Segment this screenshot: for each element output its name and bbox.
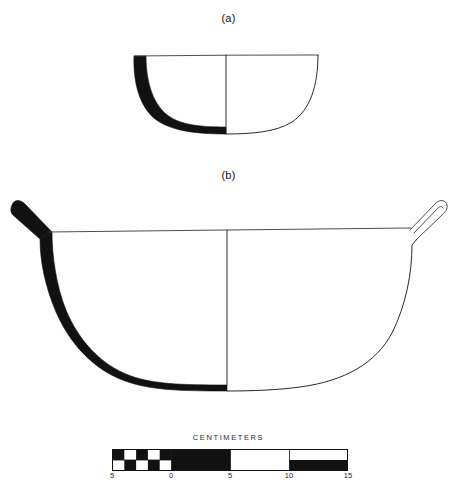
vessel-b-drawing (0, 195, 457, 405)
vessel-b-rim-left (48, 230, 227, 232)
scale-tick-0: 0 (159, 471, 183, 480)
figure-label-a: (a) (0, 12, 457, 24)
figure-label-b: (b) (0, 169, 457, 181)
scale-tick-15: 15 (336, 471, 360, 480)
vessel-a-rim-left (134, 55, 226, 56)
vessel-b-profile-right (227, 239, 417, 391)
scale-title: CENTIMETERS (0, 433, 457, 442)
vessel-a-section-wall (134, 56, 226, 134)
vessel-b-rim-right (227, 228, 411, 230)
vessel-b-lug-left (11, 200, 52, 239)
vessel-a-profile-right (226, 55, 318, 134)
vessel-a-drawing (0, 40, 457, 150)
scale-tick-5: 5 (218, 471, 242, 480)
scale-bar (112, 449, 348, 471)
scale-bar-graphic (112, 449, 348, 471)
scale-tick-labels: 5 0 5 10 15 (0, 471, 457, 485)
vessel-b-section-wall (40, 232, 227, 391)
scale-tick-minus5: 5 (100, 471, 124, 480)
figure-plate: (a) (b) CENTIMETERS (0, 0, 457, 498)
scale-tick-10: 10 (277, 471, 301, 480)
